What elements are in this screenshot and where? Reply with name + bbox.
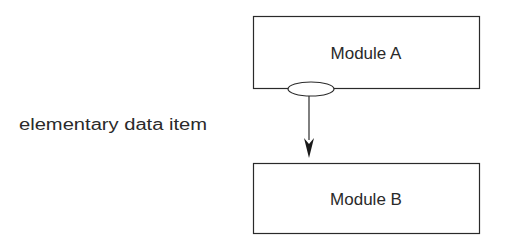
module-a-label: Module A	[331, 44, 403, 63]
data-couple-ellipse-icon	[288, 82, 334, 96]
module-a-box: Module A	[254, 17, 480, 89]
module-b-box: Module B	[254, 164, 480, 234]
structure-chart: Module A Module B elementary data item	[0, 0, 506, 247]
data-couple-connector	[288, 82, 334, 158]
module-b-label: Module B	[330, 190, 402, 209]
elementary-data-item-label: elementary data item	[19, 116, 207, 133]
arrowhead-icon	[304, 138, 314, 158]
